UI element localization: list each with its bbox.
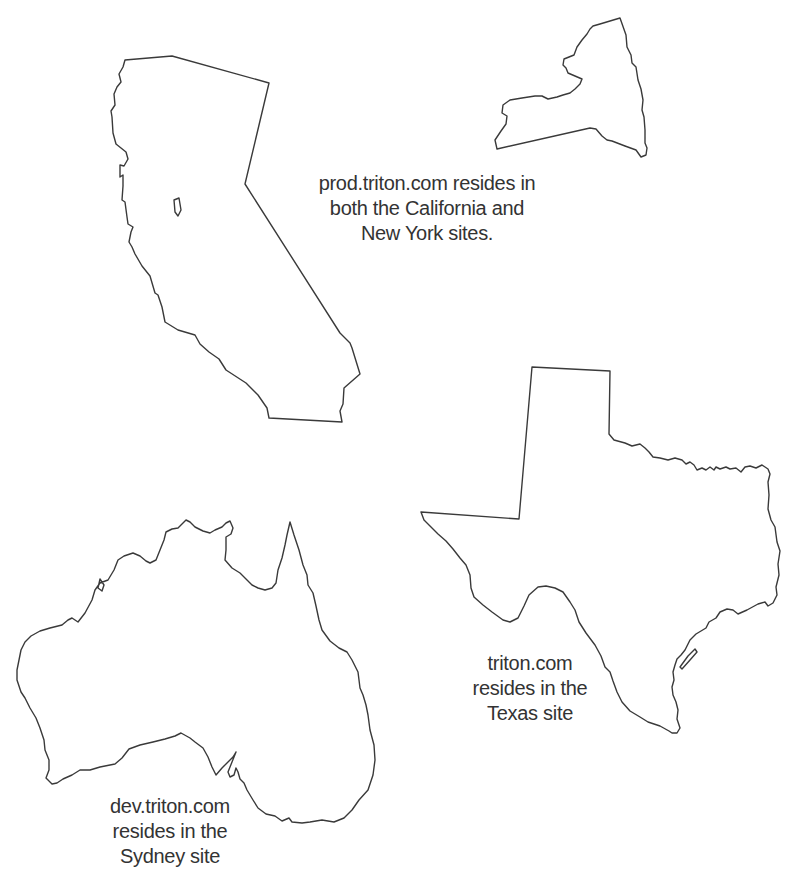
texas-label-line-2: resides in the <box>445 676 615 701</box>
dev-label-line-1: dev.triton.com <box>75 794 265 819</box>
texas-site-label: triton.com resides in the Texas site <box>445 651 615 726</box>
australia-outline <box>17 520 375 823</box>
diagram-canvas: prod.triton.com resides in both the Cali… <box>0 0 800 887</box>
new-york-outline <box>495 18 647 157</box>
prod-label-line-1: prod.triton.com resides in <box>292 171 562 196</box>
texas-label-line-1: triton.com <box>445 651 615 676</box>
prod-label-line-2: both the California and <box>292 196 562 221</box>
dev-label-line-3: Sydney site <box>75 844 265 869</box>
dev-label-line-2: resides in the <box>75 819 265 844</box>
prod-label-line-3: New York sites. <box>292 221 562 246</box>
maps-layer <box>0 0 800 887</box>
sydney-site-label: dev.triton.com resides in the Sydney sit… <box>75 794 265 869</box>
texas-label-line-3: Texas site <box>445 701 615 726</box>
prod-site-label: prod.triton.com resides in both the Cali… <box>292 171 562 246</box>
